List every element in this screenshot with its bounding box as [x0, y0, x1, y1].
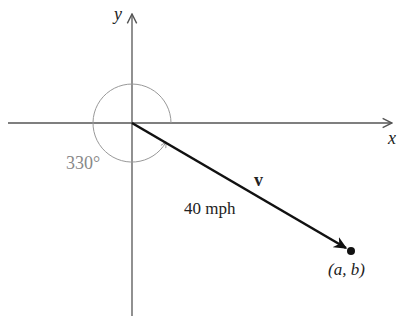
diagram-graphics: [0, 0, 397, 334]
vector-name-label: v: [254, 170, 263, 191]
magnitude-label: 40 mph: [184, 199, 235, 219]
vector-v: [132, 123, 346, 248]
endpoint-dot: [347, 247, 355, 255]
vector-diagram: y x 330° v 40 mph (a, b): [0, 0, 397, 334]
y-axis-label: y: [114, 4, 122, 25]
endpoint-label: (a, b): [328, 260, 365, 280]
x-axis-label: x: [388, 128, 396, 149]
angle-label: 330°: [66, 153, 100, 174]
